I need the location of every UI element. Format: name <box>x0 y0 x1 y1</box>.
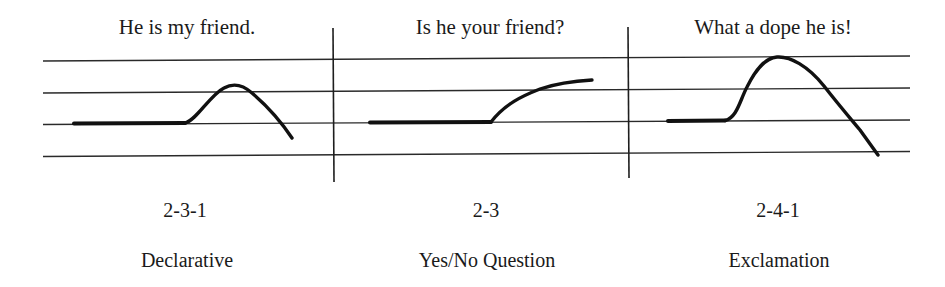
sentence-type-declarative: Declarative <box>141 250 233 270</box>
panel-divider-1 <box>333 28 334 182</box>
contour-exclamation <box>668 57 878 155</box>
staff-line-4 <box>43 152 910 157</box>
pitch-pattern-exclamation: 2-4-1 <box>756 200 799 220</box>
sentence-label-question: Is he your friend? <box>416 17 565 38</box>
sentence-type-question: Yes/No Question <box>419 250 555 270</box>
contour-curve-segment <box>185 85 292 138</box>
sentence-type-exclamation: Exclamation <box>728 250 829 270</box>
panel-divider-2 <box>628 27 629 178</box>
contour-flat-segment <box>74 123 185 124</box>
pitch-pattern-question: 2-3 <box>473 200 500 220</box>
pitch-pattern-declarative: 2-3-1 <box>163 200 206 220</box>
pitch-contours <box>74 57 878 155</box>
contour-flat-segment <box>370 122 491 123</box>
contour-flat-segment <box>668 121 725 122</box>
pitch-staff <box>43 56 910 157</box>
staff-line-2 <box>43 88 910 93</box>
sentence-label-exclamation: What a dope he is! <box>694 17 851 38</box>
panel-dividers <box>333 27 629 182</box>
contour-curve-segment <box>725 57 878 155</box>
sentence-label-declarative: He is my friend. <box>119 17 255 38</box>
contour-curve-segment <box>491 80 592 122</box>
intonation-diagram <box>0 0 945 287</box>
contour-question <box>370 80 592 123</box>
